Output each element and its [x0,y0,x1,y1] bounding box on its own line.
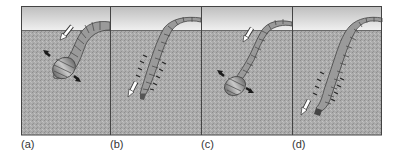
panel-label-b: (b) [110,138,123,151]
panel-label-a: (a) [21,138,34,151]
panel-label-c: (c) [201,138,214,151]
earthworm-burrowing-figure [0,0,401,156]
panel-label-d: (d) [292,138,305,151]
